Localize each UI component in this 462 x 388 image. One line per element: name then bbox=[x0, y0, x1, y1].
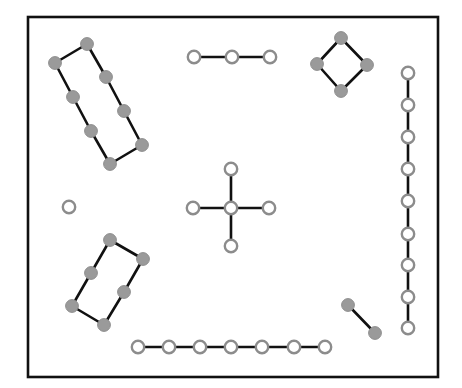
diamond-node bbox=[311, 58, 324, 71]
top-chain-node bbox=[226, 51, 238, 63]
edges-layer bbox=[55, 38, 408, 347]
top-left-rectangle-node bbox=[67, 91, 80, 104]
top-left-rectangle-node bbox=[118, 105, 131, 118]
top-left-rectangle-node bbox=[104, 158, 117, 171]
bottom-left-parallelogram-node bbox=[137, 253, 150, 266]
center-cross-node bbox=[225, 163, 237, 175]
diagram-frame bbox=[28, 17, 438, 377]
top-left-rectangle-node bbox=[49, 57, 62, 70]
right-vertical-chain-node bbox=[402, 195, 414, 207]
diagonal-pair-node bbox=[369, 327, 382, 340]
bottom-chain-node bbox=[163, 341, 175, 353]
isolated-node-node bbox=[63, 201, 75, 213]
graph-diagram bbox=[0, 0, 462, 388]
bottom-left-parallelogram-node bbox=[118, 286, 131, 299]
bottom-chain-node bbox=[194, 341, 206, 353]
right-vertical-chain-node bbox=[402, 322, 414, 334]
right-vertical-chain-node bbox=[402, 228, 414, 240]
bottom-left-parallelogram-node bbox=[66, 300, 79, 313]
diamond-node bbox=[335, 85, 348, 98]
top-left-rectangle-node bbox=[81, 38, 94, 51]
bottom-chain-node bbox=[319, 341, 331, 353]
top-left-rectangle-node bbox=[100, 71, 113, 84]
right-vertical-chain-node bbox=[402, 131, 414, 143]
center-cross-node bbox=[225, 202, 237, 214]
bottom-left-parallelogram-node bbox=[104, 234, 117, 247]
bottom-chain-node bbox=[256, 341, 268, 353]
center-cross-node bbox=[263, 202, 275, 214]
bottom-chain-node bbox=[288, 341, 300, 353]
top-left-rectangle-node bbox=[85, 125, 98, 138]
top-chain-node bbox=[264, 51, 276, 63]
bottom-left-parallelogram-node bbox=[85, 267, 98, 280]
diamond-node bbox=[335, 32, 348, 45]
right-vertical-chain-node bbox=[402, 291, 414, 303]
bottom-chain-node bbox=[132, 341, 144, 353]
center-cross-node bbox=[225, 240, 237, 252]
right-vertical-chain-node bbox=[402, 163, 414, 175]
bottom-left-parallelogram-node bbox=[98, 319, 111, 332]
diamond-node bbox=[361, 59, 374, 72]
right-vertical-chain-node bbox=[402, 67, 414, 79]
right-vertical-chain-node bbox=[402, 99, 414, 111]
bottom-chain-node bbox=[225, 341, 237, 353]
top-left-rectangle-node bbox=[136, 139, 149, 152]
right-vertical-chain-node bbox=[402, 259, 414, 271]
diagonal-pair-node bbox=[342, 299, 355, 312]
top-chain-node bbox=[188, 51, 200, 63]
center-cross-node bbox=[187, 202, 199, 214]
